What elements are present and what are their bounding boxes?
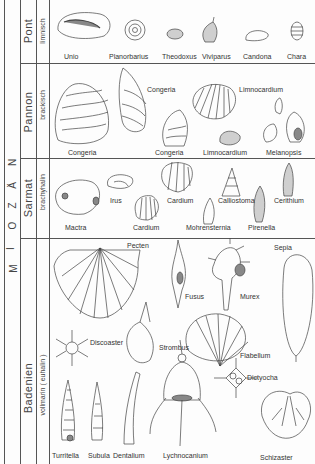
label-melanopsis: Melanopsis: [266, 149, 301, 156]
strombus-shell-icon: [127, 302, 154, 363]
discoaster-icon: [56, 330, 88, 366]
theodoxus-shell-icon: [167, 29, 183, 39]
label-strombus: Strombus: [159, 344, 189, 351]
subula-shell-icon: [91, 382, 103, 440]
planorbarius-shell-icon: [125, 20, 145, 40]
label-chara: Chara: [287, 53, 306, 60]
label-theodoxus: Theodoxus: [162, 53, 197, 60]
label-irus: Irus: [110, 197, 122, 204]
label-lychnocanium: Lychnocanium: [163, 452, 208, 459]
label-dentalium: Dentalium: [113, 452, 145, 459]
label-fusus: Fusus: [185, 293, 204, 300]
label-turritella: Turritella: [52, 452, 79, 459]
cerithium-shell-icon: [283, 163, 293, 196]
label-limnocardium-top: Limnocardium: [239, 86, 283, 93]
label-calliostoma: Calliostoma: [218, 197, 255, 204]
label-congeria-left: Congeria: [68, 149, 96, 156]
turritella-shell-icon: [61, 380, 74, 441]
label-mohrensternia: Mohrensternia: [186, 224, 231, 231]
limnocardium-ribbed-shell-icon: [193, 84, 236, 119]
label-flabellum: Flabellum: [240, 352, 270, 359]
pecten-shell-icon: [54, 248, 140, 318]
label-cardium-upper: Cardium: [167, 197, 193, 204]
congeria-elongate-shell-icon: [119, 68, 146, 132]
irus-shell-icon: [107, 175, 132, 189]
label-mactra: Mactra: [65, 224, 86, 231]
pirenella-shell-icon: [254, 186, 265, 222]
miocene-fossil-chart: N Ä Z O I M Pont Pannon Sarmat Badenien …: [0, 0, 315, 464]
label-pecten: Pecten: [127, 242, 149, 249]
melanopsis-shell-icon: [264, 98, 305, 142]
calliostoma-shell-icon: [222, 168, 240, 196]
label-congeria-middle: Congeria: [155, 149, 183, 156]
dentalium-shell-icon: [124, 372, 140, 444]
cardium-large-shell-icon: [162, 162, 193, 192]
label-cardium-lower: Cardium: [133, 224, 159, 231]
candona-shell-icon: [246, 31, 268, 41]
label-schizaster: Schizaster: [260, 454, 293, 461]
label-candona: Candona: [243, 53, 271, 60]
label-congeria-top: Congeria: [147, 86, 175, 93]
label-unio: Unio: [64, 53, 78, 60]
viviparus-shell-icon: [203, 17, 217, 42]
congeria-small-shell-icon: [163, 110, 188, 146]
mohrensternia-shell-icon: [203, 198, 214, 224]
unio-shell-icon: [58, 13, 110, 39]
mactra-shell-icon: [56, 180, 100, 214]
sepia-bone-icon: [283, 255, 313, 362]
limnocardium-small-shell-icon: [220, 131, 240, 145]
label-cerithium: Cerithium: [274, 197, 304, 204]
flabellum-coral-icon: [186, 314, 248, 366]
label-pirenella: Pirenella: [248, 224, 275, 231]
label-dictyocha: Dictyocha: [247, 374, 278, 381]
label-murex: Murex: [240, 293, 259, 300]
label-sepia: Sepia: [274, 244, 292, 251]
label-planorbarius: Planorbarius: [109, 53, 148, 60]
lychnocanium-radiolarian-icon: [150, 340, 216, 446]
label-viviparus: Viviparus: [202, 53, 231, 60]
schizaster-echinoid-icon: [261, 391, 310, 438]
chara-icon: [291, 22, 303, 40]
label-discoaster: Discoaster: [90, 339, 123, 346]
label-subula: Subula: [88, 452, 110, 459]
cardium-small-shell-icon: [135, 196, 158, 220]
fusus-shell-icon: [172, 240, 186, 308]
label-limnocardium-bottom: Limnocardium: [203, 149, 247, 156]
fossil-illustrations: [0, 0, 315, 464]
congeria-large-shell-icon: [55, 84, 108, 144]
